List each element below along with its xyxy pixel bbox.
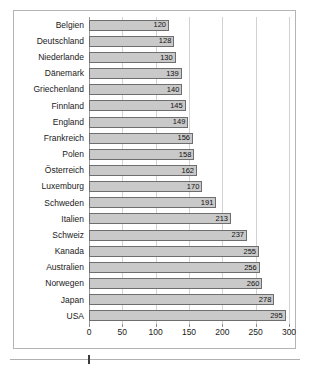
category-label: Dänemark <box>45 69 84 78</box>
category-label: Belgien <box>56 21 84 30</box>
bar-value-label: 256 <box>244 264 259 272</box>
bar-row: Griechenland140 <box>89 82 289 98</box>
bar-value-label: 170 <box>187 183 202 191</box>
category-label: England <box>53 118 84 127</box>
category-label: Frankreich <box>44 134 84 143</box>
category-label: USA <box>67 312 84 321</box>
bar-value-label: 156 <box>177 134 192 142</box>
gridline-300 <box>289 17 290 324</box>
bar-value-label: 149 <box>173 118 188 126</box>
bar-row: Norwegen260 <box>89 276 289 292</box>
bar-row: Japan278 <box>89 292 289 308</box>
bar-value-label: 140 <box>167 86 182 94</box>
bar-row: Belgien120 <box>89 17 289 33</box>
bar[interactable]: 120 <box>89 20 169 31</box>
x-tick-label: 150 <box>182 328 196 337</box>
bar-row: Deutschland128 <box>89 33 289 49</box>
bar[interactable]: 145 <box>89 100 186 111</box>
bar-value-label: 158 <box>179 151 194 159</box>
bar[interactable]: 162 <box>89 165 197 176</box>
bar-value-label: 120 <box>153 21 168 29</box>
bar-row: Österreich162 <box>89 162 289 178</box>
bar-row: Australien256 <box>89 259 289 275</box>
bar[interactable]: 295 <box>89 310 286 321</box>
bar-value-label: 213 <box>215 215 230 223</box>
bar[interactable]: 139 <box>89 68 182 79</box>
bar-row: Schweiz237 <box>89 227 289 243</box>
bar-value-label: 145 <box>170 102 185 110</box>
category-label: Niederlande <box>38 53 84 62</box>
bar[interactable]: 191 <box>89 197 216 208</box>
bar[interactable]: 149 <box>89 117 188 128</box>
category-label: Australien <box>46 263 84 272</box>
bar-value-label: 237 <box>231 231 246 239</box>
bar[interactable]: 170 <box>89 181 202 192</box>
bottom-scroll-marker[interactable] <box>88 355 90 364</box>
bar-row: Finnland145 <box>89 98 289 114</box>
bar[interactable]: 278 <box>89 294 274 305</box>
category-label: Norwegen <box>45 279 84 288</box>
bar-row: Luxemburg170 <box>89 179 289 195</box>
category-label: Deutschland <box>37 37 84 46</box>
x-tick-label: 0 <box>87 328 92 337</box>
x-tick-label: 200 <box>215 328 229 337</box>
bar-row: USA295 <box>89 308 289 324</box>
bar-row: Polen158 <box>89 146 289 162</box>
bar[interactable]: 256 <box>89 262 260 273</box>
category-label: Italien <box>61 215 84 224</box>
category-label: Polen <box>62 150 84 159</box>
bar-row: Kanada255 <box>89 243 289 259</box>
category-label: Luxemburg <box>41 182 84 191</box>
bar[interactable]: 255 <box>89 246 259 257</box>
x-tick-label: 50 <box>118 328 127 337</box>
bar-row: England149 <box>89 114 289 130</box>
bar[interactable]: 140 <box>89 84 182 95</box>
category-label: Finnland <box>51 102 84 111</box>
bar[interactable]: 260 <box>89 278 262 289</box>
bar-value-label: 162 <box>181 167 196 175</box>
category-label: Schweden <box>44 199 84 208</box>
x-tick-label: 250 <box>249 328 263 337</box>
category-label: Griechenland <box>33 85 84 94</box>
bar-value-label: 139 <box>166 70 181 78</box>
category-label: Kanada <box>55 247 84 256</box>
bar-value-label: 130 <box>160 54 175 62</box>
bar[interactable]: 158 <box>89 149 194 160</box>
chart-frame: Belgien120Deutschland128Niederlande130Dä… <box>13 10 296 349</box>
x-tick-label: 100 <box>149 328 163 337</box>
bottom-scroll-rule[interactable] <box>10 359 300 360</box>
bar-row: Schweden191 <box>89 195 289 211</box>
bar[interactable]: 213 <box>89 213 231 224</box>
bar-value-label: 260 <box>247 280 262 288</box>
bar[interactable]: 130 <box>89 52 176 63</box>
bar-row: Niederlande130 <box>89 49 289 65</box>
bar-row: Frankreich156 <box>89 130 289 146</box>
bar-value-label: 191 <box>201 199 216 207</box>
category-label: Japan <box>61 296 84 305</box>
bar[interactable]: 128 <box>89 36 174 47</box>
bar[interactable]: 237 <box>89 230 247 241</box>
category-label: Österreich <box>45 166 84 175</box>
bar-value-label: 128 <box>159 37 174 45</box>
bar-value-label: 255 <box>243 248 258 256</box>
x-axis: 050100150200250300 <box>89 324 289 344</box>
bar-value-label: 278 <box>259 296 274 304</box>
plot-area: Belgien120Deutschland128Niederlande130Dä… <box>89 17 289 324</box>
category-label: Schweiz <box>52 231 84 240</box>
bar-row: Italien213 <box>89 211 289 227</box>
bar-value-label: 295 <box>270 312 285 320</box>
bar-row: Dänemark139 <box>89 65 289 81</box>
x-tick-label: 300 <box>282 328 296 337</box>
bar[interactable]: 156 <box>89 133 193 144</box>
